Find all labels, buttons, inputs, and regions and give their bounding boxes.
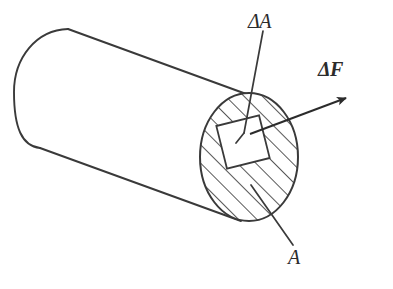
stress-diagram-svg [0,0,393,289]
figure-container: ΔA ΔF A [0,0,393,289]
cross-section-hatching [190,85,315,235]
area-label: A [288,246,300,269]
delta-force-label: ΔF [318,58,343,81]
delta-area-label: ΔA [248,10,271,33]
cylinder-top-edge [68,29,249,95]
cross-section-face [190,85,315,235]
cylinder-back-cap [14,29,68,148]
